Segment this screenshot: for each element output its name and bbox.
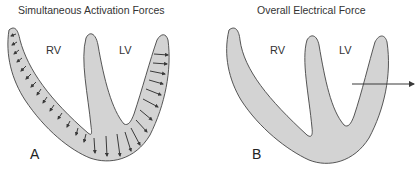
- lv-label: LV: [339, 44, 352, 56]
- panel-letter-a: A: [30, 146, 39, 162]
- rv-label: RV: [46, 44, 61, 56]
- rv-label: RV: [270, 44, 285, 56]
- heart-ventricles-diagram-b: [209, 0, 419, 169]
- panel-b-overall-electrical-force: Overall Electrical Force RV LV B: [209, 0, 419, 169]
- panel-a-title: Simultaneous Activation Forces: [18, 4, 165, 16]
- panel-letter-b: B: [252, 146, 261, 162]
- heart-ventricles-diagram-a: [0, 0, 210, 169]
- panel-b-title: Overall Electrical Force: [257, 4, 366, 16]
- ventricle-wall-shape: [227, 28, 389, 163]
- ventricle-wall-shape: [8, 28, 169, 161]
- panel-a-simultaneous-activation: Simultaneous Activation Forces RV LV A: [0, 0, 210, 169]
- lv-label: LV: [119, 44, 132, 56]
